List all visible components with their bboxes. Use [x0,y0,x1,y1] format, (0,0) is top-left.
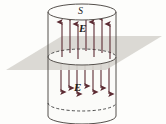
diagram-canvas [0,0,166,124]
surface-label-S: S [78,6,83,16]
field-label-E-below: E [74,82,81,93]
plane-cylinder-intersection [48,49,116,65]
gauss-law-plane-diagram: S E E [0,0,166,124]
field-label-E-above: E [79,23,86,34]
